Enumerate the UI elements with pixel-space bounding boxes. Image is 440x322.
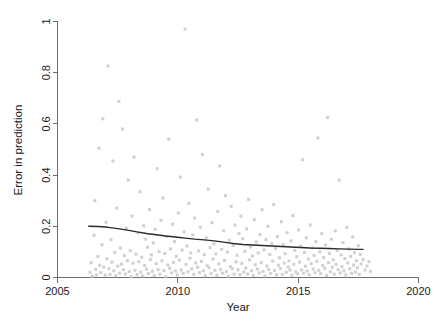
scatter-point <box>324 243 327 246</box>
scatter-point <box>245 227 248 230</box>
scatter-point <box>240 262 243 265</box>
scatter-point <box>268 253 271 256</box>
scatter-point <box>339 271 342 274</box>
scatter-point <box>211 258 214 261</box>
x-tick-label: 2020 <box>406 285 430 297</box>
scatter-point <box>354 271 357 274</box>
scatter-point <box>301 158 304 161</box>
scatter-point <box>166 263 169 266</box>
scatter-point <box>225 270 228 273</box>
scatter-point <box>95 273 98 276</box>
scatter-point <box>338 179 341 182</box>
scatter-point <box>185 245 188 248</box>
scatter-point <box>126 259 129 262</box>
scatter-point <box>352 263 355 266</box>
scatter-point <box>288 269 291 272</box>
scatter-point <box>271 260 274 263</box>
scatter-point <box>235 260 238 263</box>
trend-line <box>89 226 363 249</box>
scatter-point <box>348 267 351 270</box>
scatter-point <box>343 257 346 260</box>
scatter-point <box>270 242 273 245</box>
scatter-point <box>335 263 338 266</box>
scatter-point <box>168 267 171 270</box>
scatter-point <box>277 264 280 267</box>
scatter-point <box>349 255 352 258</box>
scatter-point <box>287 266 290 269</box>
scatter-point <box>184 28 187 31</box>
scatter-point <box>345 226 348 229</box>
scatter-point <box>182 272 185 275</box>
scatter-point <box>358 273 361 276</box>
scatter-point <box>230 205 233 208</box>
scatter-point <box>189 251 192 254</box>
scatter-point <box>171 223 174 226</box>
scatter-point <box>262 270 265 273</box>
scatter-point <box>91 275 94 278</box>
scatter-point <box>366 264 369 267</box>
y-tick-label: 1 <box>40 18 52 24</box>
y-tick-label: 0.2 <box>40 219 52 234</box>
scatter-point <box>342 269 345 272</box>
scatter-point <box>177 211 180 214</box>
scatter-point <box>173 240 176 243</box>
scatter-point <box>170 271 173 274</box>
scatter-point <box>340 253 343 256</box>
scatter-point <box>116 265 119 268</box>
scatter-point <box>167 138 170 141</box>
scatter-point <box>244 267 247 270</box>
scatter-point <box>147 272 150 275</box>
scatter-point <box>140 256 143 259</box>
scatter-point <box>193 217 196 220</box>
scatter-point <box>109 238 112 241</box>
scatter-point <box>241 237 244 240</box>
scatter-point <box>353 251 356 254</box>
scatter-point <box>214 252 217 255</box>
scatter-point <box>148 208 151 211</box>
scatter-point <box>236 254 239 257</box>
scatter-point <box>160 259 163 262</box>
scatter-point <box>132 262 135 265</box>
scatter-point <box>115 207 118 210</box>
scatter-point <box>175 255 178 258</box>
scatter-point <box>252 274 255 277</box>
scatter-point <box>360 262 363 265</box>
scatter-point <box>257 251 260 254</box>
scatter-point <box>266 225 269 228</box>
scatter-point <box>128 270 131 273</box>
scatter-point <box>258 271 261 274</box>
scatter-point <box>118 272 121 275</box>
scatter-point <box>276 235 279 238</box>
scatter-point <box>359 253 362 256</box>
scatter-point <box>149 258 152 261</box>
scatter-point <box>333 273 336 276</box>
scatter-point <box>191 234 194 237</box>
scatter-point <box>158 250 161 253</box>
scatter-point <box>248 258 251 261</box>
scatter-point <box>318 250 321 253</box>
scatter-point <box>133 156 136 159</box>
scatter-point <box>307 258 310 261</box>
scatter-point <box>119 247 122 250</box>
x-axis-title: Year <box>226 301 249 313</box>
scatter-point <box>356 266 359 269</box>
scatter-point <box>217 262 220 265</box>
y-tick-label: 0.6 <box>40 116 52 131</box>
scatter-point <box>221 272 224 275</box>
scatter-point <box>142 224 145 227</box>
scatter-point <box>289 239 292 242</box>
scatter-point <box>254 263 257 266</box>
scatter-point <box>336 249 339 252</box>
scatter-point <box>332 258 335 261</box>
scatter-point <box>303 251 306 254</box>
scatter-point <box>292 263 295 266</box>
x-axis-ticks: 2005201020152020 <box>45 278 430 297</box>
scatter-point <box>179 176 182 179</box>
scatter-point <box>99 271 102 274</box>
scatter-point <box>207 188 210 191</box>
scatter-point <box>362 258 365 261</box>
scatter-point <box>273 269 276 272</box>
scatter-point <box>137 260 140 263</box>
scatter-point <box>340 265 343 268</box>
scatter-point <box>123 254 126 257</box>
